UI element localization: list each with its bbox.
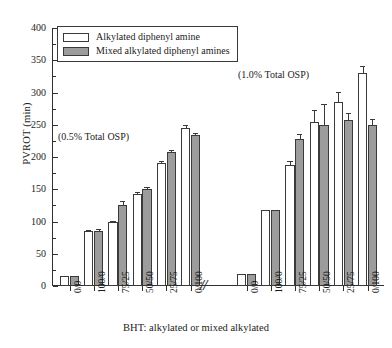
legend-swatch-gray-icon [63, 47, 89, 56]
legend-item-0: Alkylated diphenyl amine [63, 30, 230, 44]
chart-figure: PVROT (min) // 050100150200250300350400 … [0, 0, 392, 348]
x-tick [94, 286, 95, 291]
x-tick [319, 286, 320, 291]
y-tick-major [53, 222, 58, 223]
plot-area: // [52, 28, 384, 286]
chart-legend: Alkylated diphenyl amine Mixed alkylated… [57, 26, 238, 62]
bar [285, 165, 294, 286]
x-tick-label: 100/0 [98, 271, 108, 293]
y-tick-major [53, 93, 58, 94]
x-tick [247, 286, 248, 291]
x-tick [191, 286, 192, 291]
y-tick-minor [53, 76, 56, 77]
error-bar [348, 114, 349, 119]
y-tick-label: 150 [12, 184, 46, 194]
error-bar-cap [321, 104, 326, 105]
legend-item-1: Mixed alkylated diphenyl amines [63, 44, 230, 58]
y-tick-minor [53, 141, 56, 142]
bar [60, 276, 69, 286]
bar [368, 125, 377, 286]
x-tick-label: 100/0 [275, 271, 285, 293]
x-tick [70, 286, 71, 291]
error-bar [147, 188, 148, 189]
x-tick [118, 286, 119, 291]
error-bar [89, 231, 90, 232]
error-bar-cap [183, 125, 188, 126]
y-tick-minor [53, 109, 56, 110]
error-bar-cap [312, 110, 317, 111]
x-tick-label: 0/100 [195, 271, 205, 293]
y-tick-label: 350 [12, 55, 46, 65]
y-tick-label: 300 [12, 88, 46, 98]
x-tick-label: 0/0 [251, 281, 261, 293]
legend-swatch-white-icon [63, 33, 89, 42]
bar [108, 222, 117, 286]
y-tick-label: 400 [12, 23, 46, 33]
bar [295, 139, 304, 286]
x-tick [295, 286, 296, 291]
y-tick-minor [53, 44, 56, 45]
error-bar-cap [346, 113, 351, 114]
y-tick-minor [53, 270, 56, 271]
x-tick-label: 75/25 [299, 271, 309, 293]
bar [261, 210, 270, 286]
x-axis-title: BHT: alkylated or mixed alkylated [0, 322, 392, 333]
y-tick-major [53, 125, 58, 126]
error-bar-cap [336, 92, 341, 93]
error-bar-cap [169, 150, 174, 151]
bar [319, 125, 328, 286]
y-tick-major [53, 189, 58, 190]
x-tick [166, 286, 167, 291]
y-tick-minor [53, 238, 56, 239]
error-bar-cap [144, 187, 149, 188]
y-tick-minor [53, 205, 56, 206]
bar [181, 128, 190, 286]
error-bar [314, 111, 315, 122]
error-bar-cap [110, 221, 115, 222]
bar [133, 194, 142, 286]
error-bar-cap [135, 192, 140, 193]
error-bar [171, 151, 172, 152]
x-tick-label: 0/100 [372, 271, 382, 293]
x-tick [271, 286, 272, 291]
y-tick-major [53, 254, 58, 255]
x-tick [343, 286, 344, 291]
x-tick-label: 0/0 [74, 281, 84, 293]
bar [310, 122, 319, 286]
error-bar-cap [193, 133, 198, 134]
x-tick-label: 50/50 [146, 271, 156, 293]
error-bar [338, 93, 339, 101]
error-bar-cap [159, 161, 164, 162]
error-bar-cap [287, 161, 292, 162]
bar [167, 152, 176, 286]
bar [334, 102, 343, 286]
error-bar-cap [370, 119, 375, 120]
error-bar [186, 126, 187, 128]
error-bar [290, 162, 291, 165]
bar [84, 231, 93, 286]
legend-label-1: Mixed alkylated diphenyl amines [96, 46, 230, 56]
x-tick [368, 286, 369, 291]
error-bar [99, 230, 100, 231]
error-bar [161, 162, 162, 163]
error-bar-cap [360, 66, 365, 67]
error-bar [372, 120, 373, 125]
bar [237, 274, 246, 286]
bar [344, 120, 353, 286]
group-annotation-0: (0.5% Total OSP) [58, 132, 129, 142]
error-bar [137, 193, 138, 194]
bar [358, 73, 367, 286]
error-bar-cap [120, 201, 125, 202]
error-bar-cap [96, 229, 101, 230]
error-bar [113, 222, 114, 223]
y-tick-major [53, 286, 58, 287]
x-tick-label: 25/75 [347, 271, 357, 293]
error-bar [363, 67, 364, 72]
y-tick-minor [53, 173, 56, 174]
error-bar [300, 135, 301, 139]
error-bar-cap [86, 230, 91, 231]
x-tick-label: 25/75 [170, 271, 180, 293]
group-annotation-1: (1.0% Total OSP) [238, 70, 309, 80]
x-tick-label: 50/50 [323, 271, 333, 293]
x-tick [142, 286, 143, 291]
